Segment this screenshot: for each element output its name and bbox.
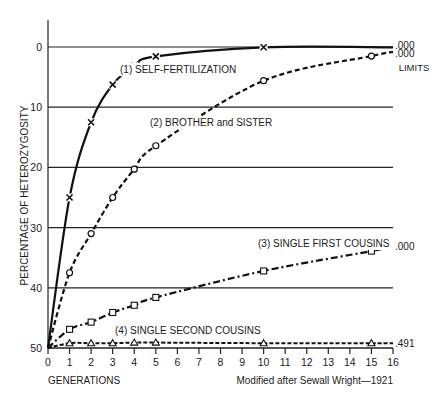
- y-tick-label: 40: [30, 282, 42, 294]
- limits-label: LIMITS: [399, 62, 430, 73]
- limit-value: .000: [395, 48, 415, 59]
- x-tick-label: 13: [322, 356, 334, 368]
- y-tick-label: 10: [30, 101, 42, 113]
- series-line: [48, 52, 393, 348]
- x-tick-label: 11: [280, 356, 291, 368]
- x-tick-label: 15: [366, 356, 378, 368]
- square-marker: [261, 268, 267, 274]
- x-tick-label: 8: [218, 356, 224, 368]
- square-marker: [67, 326, 73, 332]
- series-line: [48, 343, 393, 348]
- square-marker: [153, 294, 159, 300]
- gridlines: [48, 47, 393, 288]
- series-line: [48, 47, 393, 348]
- x-tick-label: 16: [387, 356, 399, 368]
- limit-value: .491: [395, 338, 415, 349]
- credit-text: Modified after Sewall Wright—1921: [236, 375, 393, 386]
- series-lines: [48, 43, 393, 348]
- x-tick-label: 3: [110, 356, 116, 368]
- x-tick-label: 12: [301, 356, 313, 368]
- x-tick-label: 0: [45, 356, 51, 368]
- square-marker: [131, 302, 137, 308]
- circle-marker: [261, 78, 267, 84]
- x-tick-label: 1: [67, 356, 73, 368]
- square-marker: [88, 319, 94, 325]
- x-tick-label: 4: [131, 356, 137, 368]
- y-tick-label: 20: [30, 161, 42, 173]
- circle-marker: [67, 270, 73, 276]
- labels: 01020304050012345678910111213141516GENER…: [19, 40, 429, 386]
- triangle-marker: [88, 340, 95, 346]
- circle-marker: [131, 166, 137, 172]
- circle-marker: [88, 231, 94, 237]
- y-axis-label: PERCENTAGE OF HETEROZYGOSITY: [19, 105, 30, 285]
- series-label: (2) BROTHER and SISTER: [150, 117, 272, 128]
- circle-marker: [153, 143, 159, 149]
- x-tick-label: 9: [239, 356, 245, 368]
- x-tick-label: 7: [196, 356, 202, 368]
- square-marker: [110, 309, 116, 315]
- y-tick-label: 50: [30, 342, 42, 354]
- circle-marker: [368, 53, 374, 59]
- x-tick-label: 10: [258, 356, 270, 368]
- series-label: (1) SELF-FERTILIZATION: [120, 64, 236, 75]
- circle-marker: [110, 195, 116, 201]
- y-tick-label: 30: [30, 222, 42, 234]
- y-tick-label: 0: [36, 41, 42, 53]
- x-tick-label: 14: [344, 356, 356, 368]
- x-tick-label: 5: [153, 356, 159, 368]
- x-tick-label: 2: [88, 356, 94, 368]
- limit-value: .000: [395, 241, 415, 252]
- heterozygosity-chart: 01020304050012345678910111213141516GENER…: [0, 0, 442, 402]
- series-label: (3) SINGLE FIRST COUSINS: [258, 238, 390, 249]
- x-tick-label: 6: [174, 356, 180, 368]
- series-label: (4) SINGLE SECOND COUSINS: [115, 325, 261, 336]
- x-axis-label: GENERATIONS: [48, 375, 120, 386]
